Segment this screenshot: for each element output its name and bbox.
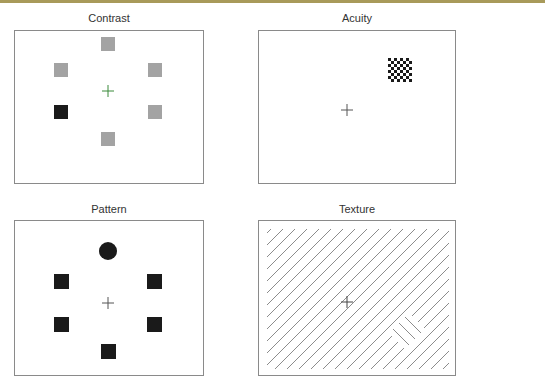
texture-target-patch — [393, 317, 421, 345]
target-black-square — [54, 105, 68, 119]
fixation-cross-icon — [341, 296, 353, 308]
top-rule — [0, 0, 545, 3]
black-square — [147, 274, 162, 289]
panel-texture — [258, 220, 456, 376]
black-square — [147, 317, 162, 332]
gray-square — [101, 37, 115, 51]
panel-title-contrast: Contrast — [9, 12, 209, 24]
black-square — [54, 317, 69, 332]
panel-title-texture: Texture — [257, 203, 457, 215]
fixation-cross-icon — [341, 104, 353, 116]
contrast-stimulus — [15, 31, 205, 185]
panel-title-pattern: Pattern — [9, 203, 209, 215]
panel-contrast — [14, 30, 204, 184]
gray-square — [54, 63, 68, 77]
texture-stimulus — [259, 221, 457, 377]
checkerboard-target — [388, 58, 412, 82]
acuity-stimulus — [259, 31, 457, 185]
target-black-circle — [99, 242, 117, 260]
panel-acuity — [258, 30, 456, 184]
gray-square — [148, 105, 162, 119]
fixation-cross-icon — [102, 85, 114, 97]
pattern-stimulus — [15, 221, 205, 377]
panel-title-acuity: Acuity — [257, 12, 457, 24]
fixation-cross-icon — [102, 297, 114, 309]
panel-pattern — [14, 220, 204, 376]
gray-square — [101, 132, 115, 146]
black-square — [54, 274, 69, 289]
black-square — [101, 344, 116, 359]
gray-square — [148, 63, 162, 77]
diagonal-line-field — [259, 221, 457, 377]
